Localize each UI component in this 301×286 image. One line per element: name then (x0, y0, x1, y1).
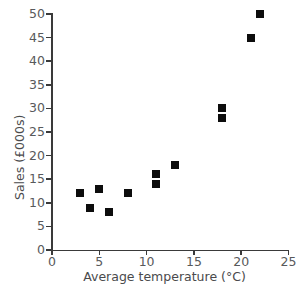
x-axis-title: Average temperature (°C) (0, 270, 301, 284)
data-point (256, 10, 264, 18)
x-tick-label: 15 (186, 256, 202, 269)
data-point (105, 208, 113, 216)
y-tick-label: 5 (37, 220, 52, 233)
data-point (152, 180, 160, 188)
x-tick-label: 0 (48, 256, 56, 269)
data-point (76, 189, 84, 197)
y-tick-label: 10 (29, 197, 52, 210)
y-axis-title: Sales (£000s) (14, 115, 27, 200)
data-point (86, 204, 94, 212)
x-tick-label: 25 (281, 256, 297, 269)
y-tick-label: 40 (29, 55, 52, 68)
data-point (95, 185, 103, 193)
y-tick-label: 15 (29, 173, 52, 186)
x-axis-line (51, 250, 289, 252)
data-point (218, 104, 226, 112)
x-tick-label: 20 (233, 256, 249, 269)
y-tick-label: 35 (29, 79, 52, 92)
scatter-chart: 05101520253035404550 0510152025 Sales (£… (0, 0, 301, 286)
data-point (247, 34, 255, 42)
y-tick-label: 45 (29, 31, 52, 44)
y-tick-label: 20 (29, 149, 52, 162)
x-tick-label: 5 (95, 256, 103, 269)
y-tick-label: 50 (29, 8, 52, 21)
data-point (124, 189, 132, 197)
data-point (171, 161, 179, 169)
data-point (218, 114, 226, 122)
x-tick-label: 10 (139, 256, 155, 269)
data-point (152, 170, 160, 178)
y-tick-label: 25 (29, 126, 52, 139)
y-tick-label: 30 (29, 102, 52, 115)
